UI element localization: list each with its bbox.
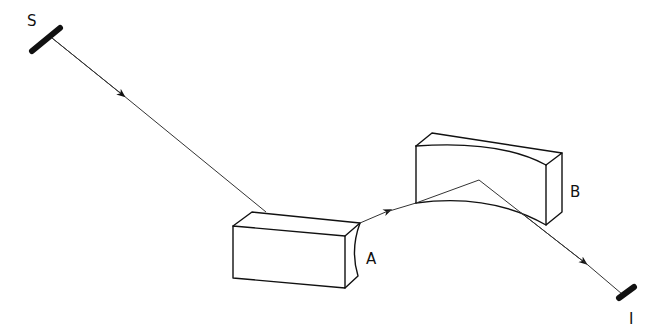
reflected-ray — [416, 180, 622, 294]
arrow-icon — [360, 211, 388, 223]
source-s: S — [27, 12, 60, 51]
incoming-ray — [52, 38, 266, 212]
image-bar — [619, 287, 634, 298]
middle-ray — [360, 203, 416, 223]
block-a: A — [233, 212, 377, 288]
optical-diagram: S A B — [0, 0, 671, 333]
label-i: I — [629, 310, 633, 328]
label-a: A — [366, 250, 377, 268]
block-b: B — [416, 133, 580, 225]
arrow-icon — [52, 38, 122, 95]
image-i: I — [619, 287, 634, 328]
label-s: S — [27, 12, 37, 30]
source-bar — [32, 28, 60, 51]
label-b: B — [570, 183, 580, 201]
